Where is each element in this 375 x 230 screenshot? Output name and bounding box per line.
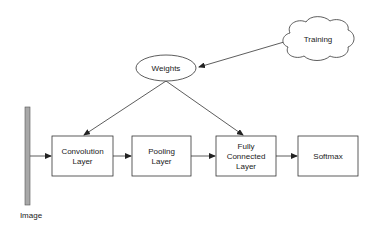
weights-node[interactable]: Weights <box>136 55 196 81</box>
edge-training-weights <box>199 42 284 67</box>
pooling-label-line2: Layer <box>151 157 171 166</box>
image-node[interactable]: Image <box>20 107 43 220</box>
edge-weights-convolution <box>84 81 166 135</box>
softmax-node[interactable]: Softmax <box>298 136 358 176</box>
pooling-layer-node[interactable]: Pooling Layer <box>132 136 191 176</box>
pooling-layer-box <box>132 136 191 176</box>
training-node[interactable]: Training <box>283 17 354 61</box>
weights-label: Weights <box>152 64 181 73</box>
convolution-layer-node[interactable]: Convolution Layer <box>52 136 113 176</box>
fully-connected-label-line3: Layer <box>236 162 256 171</box>
fully-connected-label-line1: Fully <box>238 142 255 151</box>
pooling-label-line1: Pooling <box>148 147 175 156</box>
training-label: Training <box>304 35 333 44</box>
image-label: Image <box>20 211 43 220</box>
edge-weights-fully-connected <box>166 81 243 135</box>
convolution-label-line1: Convolution <box>61 147 103 156</box>
convolution-layer-box <box>52 136 113 176</box>
image-bar <box>25 107 30 205</box>
softmax-label: Softmax <box>313 152 342 161</box>
convolution-label-line2: Layer <box>72 157 92 166</box>
fully-connected-layer-node[interactable]: Fully Connected Layer <box>216 136 276 176</box>
diagram-canvas: Training Weights Image Convolution Layer… <box>0 0 375 230</box>
fully-connected-label-line2: Connected <box>227 152 266 161</box>
